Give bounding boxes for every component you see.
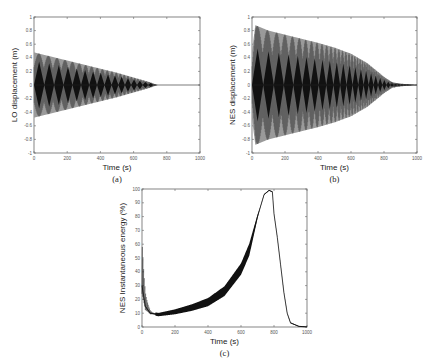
- x-tick-label: 600: [130, 156, 138, 161]
- x-tick-label: 600: [347, 156, 355, 161]
- y-tick-label: 1: [29, 15, 32, 20]
- y-tick-label: 0: [137, 325, 140, 330]
- chart-lo-displacement: 02004006008001000-1-0.8-0.6-0.4-0.200.20…: [10, 15, 206, 184]
- y-tick-label: 0.2: [26, 69, 33, 74]
- y-tick-label: 0.6: [26, 42, 33, 47]
- y-tick-label: -0.4: [24, 110, 32, 115]
- x-axis-label: Time (s): [210, 337, 239, 346]
- y-tick-label: -0.8: [242, 137, 250, 142]
- y-tick-label: 0: [247, 83, 250, 88]
- y-tick-label: 20: [135, 297, 141, 302]
- y-tick-label: 90: [135, 200, 141, 205]
- initial-transient: [142, 247, 157, 315]
- y-tick-label: -0.2: [242, 96, 250, 101]
- x-tick-label: 0: [141, 330, 144, 335]
- y-tick-label: 80: [135, 214, 141, 219]
- y-tick-label: 100: [132, 187, 140, 192]
- y-tick-label: -0.6: [24, 123, 32, 128]
- y-tick-label: -1: [246, 151, 250, 156]
- x-tick-label: 200: [63, 156, 71, 161]
- x-tick-label: 0: [33, 156, 36, 161]
- subfigure-caption: (a): [112, 174, 122, 184]
- x-tick-label: 800: [380, 156, 388, 161]
- x-tick-label: 400: [314, 156, 322, 161]
- axes-frame: [142, 189, 307, 327]
- energy-trace: [142, 190, 307, 327]
- x-tick-label: 1000: [412, 156, 423, 161]
- x-tick-label: 200: [281, 156, 289, 161]
- x-axis-label: Time (s): [320, 163, 349, 172]
- y-tick-label: 10: [135, 311, 141, 316]
- y-tick-label: 0.2: [244, 69, 251, 74]
- y-tick-label: 70: [135, 228, 141, 233]
- chart-nes-displacement: 02004006008001000-1-0.8-0.6-0.4-0.200.20…: [228, 15, 423, 184]
- y-tick-label: 1: [247, 15, 250, 20]
- y-tick-label: 0: [29, 83, 32, 88]
- y-tick-label: -0.4: [242, 110, 250, 115]
- x-axis-label: Time (s): [102, 163, 131, 172]
- figure-canvas: 02004006008001000-1-0.8-0.6-0.4-0.200.20…: [0, 0, 432, 361]
- chart-nes-energy: 020040060080010000102030405060708090100T…: [118, 187, 313, 358]
- y-tick-label: 50: [135, 256, 141, 261]
- y-tick-label: 60: [135, 242, 141, 247]
- y-tick-label: -0.8: [24, 137, 32, 142]
- x-tick-label: 800: [270, 330, 278, 335]
- y-axis-label: LO displacement (m): [10, 48, 19, 123]
- y-tick-label: -0.6: [242, 123, 250, 128]
- y-axis-label: NES displacement (m): [228, 45, 237, 125]
- x-tick-label: 1000: [302, 330, 313, 335]
- x-tick-label: 200: [171, 330, 179, 335]
- y-tick-label: 0.4: [244, 55, 251, 60]
- subfigure-caption: (b): [330, 174, 340, 184]
- energy-band: [142, 190, 307, 327]
- y-tick-label: -1: [28, 151, 32, 156]
- x-tick-label: 400: [97, 156, 105, 161]
- y-tick-label: 40: [135, 269, 141, 274]
- y-tick-label: 0.4: [26, 55, 33, 60]
- y-tick-label: 30: [135, 283, 141, 288]
- x-tick-label: 400: [204, 330, 212, 335]
- x-tick-label: 1000: [195, 156, 206, 161]
- x-tick-label: 600: [237, 330, 245, 335]
- y-tick-label: -0.2: [24, 96, 32, 101]
- y-tick-label: 0.8: [244, 28, 251, 33]
- x-tick-label: 0: [251, 156, 254, 161]
- y-tick-label: 0.8: [26, 28, 33, 33]
- y-axis-label: NES Instantaneous energy (%): [118, 203, 127, 314]
- x-tick-label: 800: [163, 156, 171, 161]
- subfigure-caption: (c): [220, 348, 230, 358]
- y-tick-label: 0.6: [244, 42, 251, 47]
